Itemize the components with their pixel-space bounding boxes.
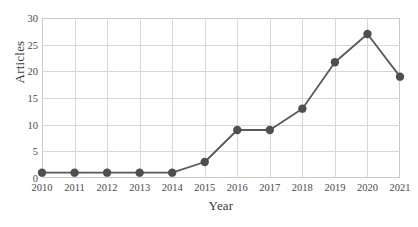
articles-line-series: 2010: 12011: 12012: 12013: 12014: 12015:…: [42, 18, 400, 178]
y-axis-tick-labels: 051015202530: [0, 18, 38, 178]
x-axis-tick-labels: 2010201120122013201420152016201720182019…: [42, 182, 400, 198]
y-tick-label: 5: [4, 146, 38, 157]
data-point-marker: 2019: 21.7: [331, 58, 339, 66]
data-point-marker: 2015: 3: [201, 158, 209, 166]
y-tick-label: 20: [4, 66, 38, 77]
data-point-marker: 2013: 1: [135, 168, 143, 176]
data-point-marker: 2016: 9: [233, 126, 241, 134]
y-tick-label: 10: [4, 119, 38, 130]
y-tick-label: 25: [4, 39, 38, 50]
data-point-marker: 2017: 9: [266, 126, 274, 134]
data-point-marker: 2010: 1: [38, 168, 46, 176]
data-point-marker: 2012: 1: [103, 168, 111, 176]
y-tick-label: 30: [4, 13, 38, 24]
x-tick-label: 2021: [380, 182, 418, 193]
data-point-marker: 2014: 1: [168, 168, 176, 176]
line-chart-figure: Articles 051015202530 2010: 12011: 12012…: [0, 0, 418, 227]
plot-area: 2010: 12011: 12012: 12013: 12014: 12015:…: [42, 18, 400, 178]
x-axis-title: Year: [42, 198, 400, 214]
series-line: [42, 34, 400, 173]
y-tick-label: 15: [4, 93, 38, 104]
data-point-marker: 2021: 19: [396, 72, 404, 80]
data-point-marker: 2018: 13: [298, 104, 306, 112]
data-point-marker: 2011: 1: [70, 168, 78, 176]
data-point-marker: 2020: 27: [363, 30, 371, 38]
